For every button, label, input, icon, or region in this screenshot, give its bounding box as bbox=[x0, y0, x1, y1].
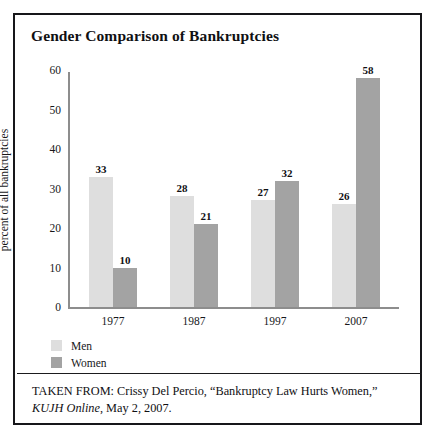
legend-label: Men bbox=[71, 340, 92, 352]
y-tick-50: 50 bbox=[39, 104, 61, 116]
legend-item-men: Men bbox=[51, 337, 106, 354]
x-tick-1997: 1997 bbox=[240, 315, 310, 327]
y-tick-30: 30 bbox=[39, 183, 61, 195]
plot-area: 0102030405060 percent of all bankruptcie… bbox=[68, 59, 408, 309]
bar-label-women-1987: 21 bbox=[186, 210, 226, 222]
chart-legend: MenWomen bbox=[51, 337, 106, 371]
bar-women-1987 bbox=[194, 224, 218, 307]
bar-men-2007 bbox=[332, 204, 356, 307]
source-prefix: TAKEN FROM: Crissy Del Percio, “Bankrupt… bbox=[32, 384, 377, 398]
bar-label-men-1987: 28 bbox=[162, 182, 202, 194]
y-axis-tick-labels: 0102030405060 bbox=[35, 59, 61, 309]
x-tick-1987: 1987 bbox=[159, 315, 229, 327]
y-axis-title: percent of all bankruptcies bbox=[0, 90, 10, 290]
chart-title: Gender Comparison of Bankruptcies bbox=[31, 27, 279, 45]
bar-women-1997 bbox=[275, 181, 299, 307]
legend-label: Women bbox=[71, 357, 106, 369]
x-axis-line bbox=[68, 307, 399, 309]
legend-swatch-icon-women bbox=[51, 357, 62, 368]
legend-swatch-icon-men bbox=[51, 340, 62, 351]
bar-label-men-1977: 33 bbox=[81, 163, 121, 175]
source-suffix: , May 2, 2007. bbox=[100, 401, 172, 415]
y-tick-10: 10 bbox=[39, 262, 61, 274]
source-publication: KUJH Online bbox=[32, 401, 100, 415]
bar-label-women-2007: 58 bbox=[348, 64, 388, 76]
bar-label-women-1977: 10 bbox=[105, 254, 145, 266]
figure-frame: Gender Comparison of Bankruptcies 010203… bbox=[13, 13, 422, 425]
y-tick-20: 20 bbox=[39, 222, 61, 234]
bar-men-1997 bbox=[251, 200, 275, 307]
x-tick-1977: 1977 bbox=[78, 315, 148, 327]
bar-women-2007 bbox=[356, 78, 380, 307]
bar-label-women-1997: 32 bbox=[267, 167, 307, 179]
bar-women-1977 bbox=[113, 268, 137, 308]
bar-men-1977 bbox=[89, 177, 113, 307]
y-tick-0: 0 bbox=[39, 301, 61, 313]
y-tick-40: 40 bbox=[39, 143, 61, 155]
source-citation: TAKEN FROM: Crissy Del Percio, “Bankrupt… bbox=[32, 383, 410, 418]
figure-page: Gender Comparison of Bankruptcies 010203… bbox=[0, 0, 437, 443]
x-tick-2007: 2007 bbox=[321, 315, 391, 327]
legend-item-women: Women bbox=[51, 354, 106, 371]
source-divider bbox=[17, 373, 422, 374]
y-tick-60: 60 bbox=[39, 64, 61, 76]
y-axis-line bbox=[68, 72, 70, 309]
